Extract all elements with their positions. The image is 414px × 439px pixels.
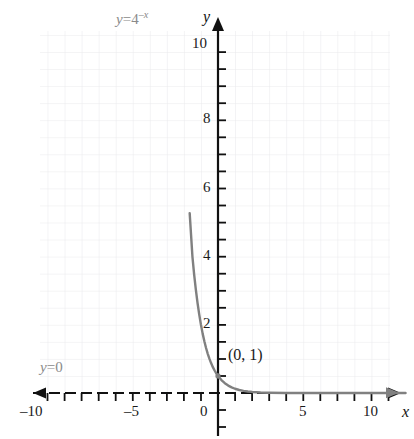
- curve-eq-operator: =: [123, 11, 131, 27]
- y-tick-label-10: 10: [192, 36, 207, 51]
- asymptote-operator: =: [47, 359, 55, 375]
- annotated-point-label: (0, 1): [228, 347, 263, 363]
- curve-eq-exponent: –x: [139, 9, 149, 20]
- x-tick-label--10: –10: [20, 404, 43, 419]
- curve-eq-lhs: y: [116, 11, 123, 27]
- x-tick-label-10: 10: [363, 404, 378, 419]
- grid-lines: [40, 31, 390, 393]
- curve-eq-base: 4: [131, 11, 139, 27]
- asymptote-lhs: y: [40, 359, 47, 375]
- y-tick-label-4: 4: [203, 248, 211, 263]
- point-marker-0-1: [215, 373, 220, 378]
- y-tick-label-6: 6: [203, 180, 211, 195]
- y-axis-name-label: y: [203, 9, 210, 25]
- x-tick-label--5: –5: [124, 404, 139, 419]
- y-axis-arrow-top: [212, 17, 224, 31]
- x-axis-arrow-left: [33, 388, 46, 399]
- y-tick-label-8: 8: [203, 111, 211, 126]
- curve-equation-label: y=4–x: [116, 12, 148, 27]
- exponential-decay-graph-figure: –10 –5 0 5 10 2 4 6 8 10 y x y=4–x y=0 (…: [0, 0, 414, 439]
- x-tick-label-5: 5: [299, 404, 307, 419]
- x-tick-label-0: 0: [200, 404, 208, 419]
- asymptote-rhs: 0: [55, 359, 63, 375]
- y-tick-label-2: 2: [203, 316, 211, 331]
- asymptote-label: y=0: [40, 360, 63, 375]
- x-axis-name-label: x: [402, 404, 409, 420]
